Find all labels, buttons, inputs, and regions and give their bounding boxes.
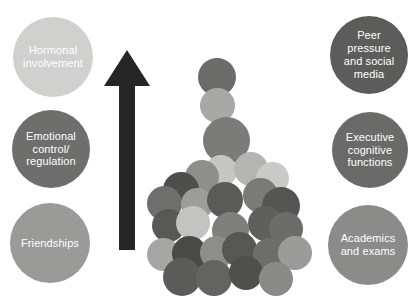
bubble-label: Peer pressure and social media — [330, 29, 408, 81]
diagram-canvas: Hormonal involvementEmotional control/ r… — [0, 0, 420, 308]
bubble-label: Academics and exams — [335, 232, 402, 258]
cluster-dot — [176, 206, 210, 240]
bubble-academics-and-exams: Academics and exams — [328, 205, 408, 285]
bubble-peer-pressure-and-social-media: Peer pressure and social media — [330, 16, 408, 94]
bubble-label: Executive cognitive functions — [340, 131, 401, 170]
cluster-dot — [259, 262, 293, 296]
cluster-dot — [196, 260, 232, 296]
cluster-dot — [229, 256, 263, 290]
bubble-executive-cognitive-functions: Executive cognitive functions — [332, 112, 408, 188]
